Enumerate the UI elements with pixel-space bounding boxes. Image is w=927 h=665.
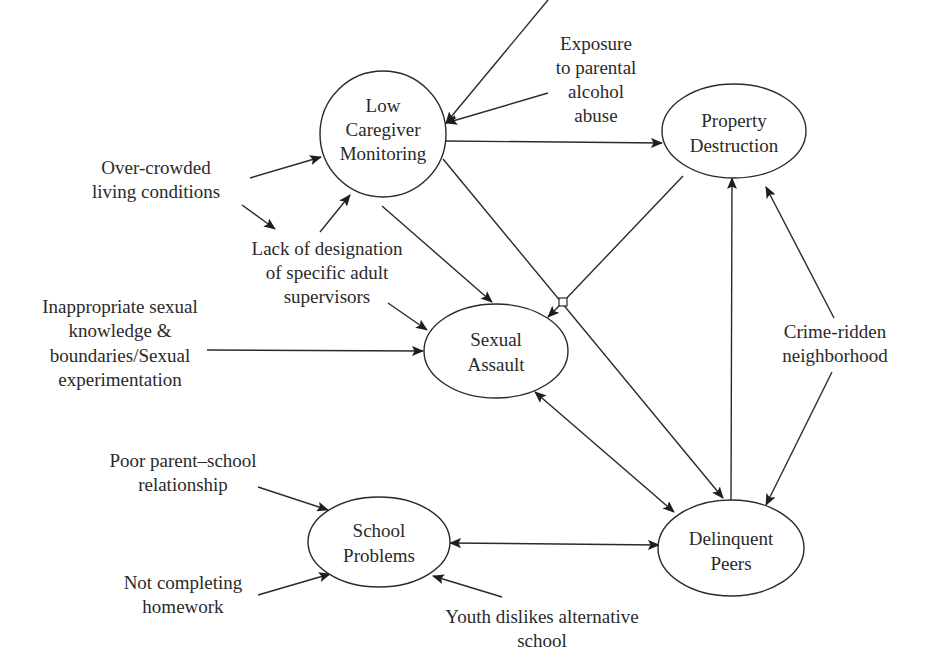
svg-text:supervisors: supervisors <box>284 286 371 307</box>
edge-overcrowded-to-supervisors <box>242 205 275 229</box>
svg-text:Poor parent–school: Poor parent–school <box>109 450 256 471</box>
causal-diagram: Low Caregiver Monitoring Property Destru… <box>0 0 927 665</box>
node-school-problems[interactable]: School Problems <box>308 497 450 587</box>
edge-delinquent-to-property <box>731 178 732 500</box>
edge-sexual-assault-delinquent-peers <box>535 392 674 512</box>
svg-text:of specific adult: of specific adult <box>266 262 389 283</box>
svg-text:Not completing: Not completing <box>124 572 243 593</box>
node-label: Low <box>366 95 401 116</box>
node-label: Problems <box>343 545 415 566</box>
edge-supervisors-to-sexual-assault <box>388 303 427 330</box>
node-label: Sexual <box>470 329 522 350</box>
node-label: Delinquent <box>689 528 774 549</box>
factor-crime-ridden-neighborhood: Crime-ridden neighborhood <box>782 321 888 366</box>
svg-text:experimentation: experimentation <box>58 369 182 390</box>
edge-caregiver-to-property <box>446 141 662 143</box>
node-label: Destruction <box>690 135 779 156</box>
svg-text:Youth dislikes alternative: Youth dislikes alternative <box>445 606 638 627</box>
node-delinquent-peers[interactable]: Delinquent Peers <box>658 500 804 596</box>
edge-school-problems-delinquent-peers <box>450 543 659 545</box>
svg-text:alcohol: alcohol <box>568 81 624 102</box>
node-label: Property <box>701 110 767 131</box>
factor-lack-of-supervisors: Lack of designation of specific adult su… <box>252 238 403 307</box>
svg-text:living conditions: living conditions <box>92 181 220 202</box>
svg-text:school: school <box>517 630 567 651</box>
svg-text:Crime-ridden: Crime-ridden <box>784 321 887 342</box>
factor-not-completing-homework: Not completing homework <box>124 572 243 617</box>
node-low-caregiver-monitoring[interactable]: Low Caregiver Monitoring <box>320 71 446 197</box>
edge-homework-to-school-problems <box>258 574 330 595</box>
factor-poor-parent-school-relationship: Poor parent–school relationship <box>109 450 256 495</box>
svg-text:relationship: relationship <box>138 474 228 495</box>
svg-text:neighborhood: neighborhood <box>782 345 888 366</box>
node-sexual-assault[interactable]: Sexual Assault <box>424 304 568 398</box>
svg-text:homework: homework <box>142 596 224 617</box>
svg-text:boundaries/Sexual: boundaries/Sexual <box>50 345 190 366</box>
svg-text:knowledge &: knowledge & <box>69 320 172 341</box>
svg-text:Exposure: Exposure <box>560 33 632 54</box>
edge-sexual-knowledge-to-sexual-assault <box>207 350 423 351</box>
node-property-destruction[interactable]: Property Destruction <box>662 84 806 178</box>
edge-alcohol-to-caregiver <box>446 0 548 123</box>
node-label: Assault <box>468 354 526 375</box>
svg-text:Over-crowded: Over-crowded <box>101 157 211 178</box>
factor-inappropriate-sexual-knowledge: Inappropriate sexual knowledge & boundar… <box>42 296 198 390</box>
factor-youth-dislikes-alternative-school: Youth dislikes alternative school <box>445 606 638 651</box>
svg-text:abuse: abuse <box>574 105 617 126</box>
edge-crime-to-property <box>766 187 834 318</box>
node-label: School <box>353 520 406 541</box>
node-label: Peers <box>710 553 751 574</box>
node-label: Monitoring <box>340 143 427 164</box>
edge-parent-school-to-school-problems <box>258 487 328 510</box>
svg-text:to parental: to parental <box>556 57 637 78</box>
junction-node <box>559 298 567 306</box>
edge-supervisors-to-caregiver <box>320 195 350 232</box>
edge-alcohol-to-caregiver <box>446 93 548 123</box>
svg-text:Inappropriate sexual: Inappropriate sexual <box>42 296 198 317</box>
svg-text:Lack of designation: Lack of designation <box>252 238 403 259</box>
factor-parental-alcohol-abuse: Exposure to parental alcohol abuse <box>556 33 637 126</box>
edge-alt-school-to-school-problems <box>433 576 502 597</box>
factor-overcrowded-living: Over-crowded living conditions <box>92 157 220 202</box>
node-label: Caregiver <box>346 119 422 140</box>
edge-property-to-junction <box>563 176 683 302</box>
edge-overcrowded-to-caregiver <box>250 157 321 178</box>
edge-crime-to-delinquent <box>766 372 832 505</box>
